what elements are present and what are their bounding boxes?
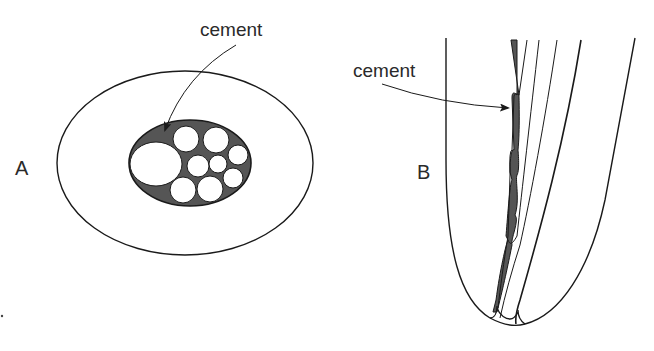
cement-diagram: A cement B [0,0,654,351]
cement-strip [493,40,519,312]
outer-wall [446,38,635,326]
cement-arrow-a [165,45,236,130]
strand-4 [516,40,581,324]
panel-a: A cement [15,19,313,255]
panel-a-letter: A [15,157,29,179]
stray-dot [1,315,3,317]
cement-label-b: cement [353,60,416,81]
cement-label-a: cement [200,19,263,40]
strand-3 [500,40,557,318]
panel-b-letter: B [417,161,430,183]
panel-b: B cement [353,38,635,326]
cement-arrow-b [382,84,508,108]
